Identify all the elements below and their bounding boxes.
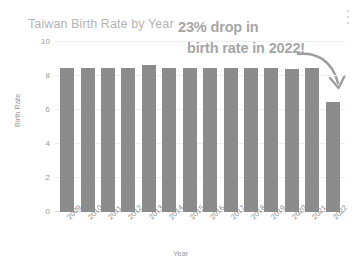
x-tick-column: 2012 — [118, 213, 138, 247]
y-axis-title: Birth Rate — [13, 94, 22, 127]
bar[interactable] — [81, 68, 95, 213]
chart-title: Taiwan Birth Rate by Year — [28, 17, 174, 31]
x-tick-column: 2011 — [98, 213, 118, 247]
callout-line-1: 23% drop in — [178, 17, 338, 38]
bar[interactable] — [244, 68, 258, 212]
x-tick-labels: 2009201020112012201320142015201620172018… — [55, 213, 345, 247]
bar[interactable] — [121, 68, 135, 213]
bar[interactable] — [101, 68, 115, 213]
x-tick-column: 2018 — [241, 213, 261, 247]
bar-column — [98, 42, 118, 212]
bar[interactable] — [142, 65, 156, 212]
bar[interactable] — [183, 68, 197, 213]
chart-screenshot: Taiwan Birth Rate by Year 23% drop in bi… — [0, 0, 361, 267]
bar-column — [180, 42, 200, 212]
bar-column — [77, 42, 97, 212]
x-tick-column: 2022 — [322, 213, 342, 247]
bar-column — [241, 42, 261, 212]
plot-area: 0246810 — [55, 42, 345, 212]
kebab-dot — [347, 10, 349, 12]
x-axis-title: Year — [0, 249, 361, 258]
bar-column — [139, 42, 159, 212]
y-tick-label: 2 — [46, 173, 50, 182]
bar[interactable] — [224, 68, 238, 212]
y-tick-label: 4 — [46, 139, 50, 148]
y-tick-label: 8 — [46, 71, 50, 80]
more-options-icon[interactable] — [343, 9, 353, 25]
bar-column — [118, 42, 138, 212]
bar[interactable] — [203, 68, 217, 213]
x-tick-column: 2019 — [261, 213, 281, 247]
bar[interactable] — [264, 68, 278, 212]
bar[interactable] — [162, 68, 176, 213]
bar-column — [302, 42, 322, 212]
bar-column — [282, 42, 302, 212]
bar-column — [159, 42, 179, 212]
x-tick-column: 2014 — [159, 213, 179, 247]
bar-column — [200, 42, 220, 212]
bar-column — [57, 42, 77, 212]
x-tick-column: 2016 — [200, 213, 220, 247]
bar-column — [220, 42, 240, 212]
kebab-dot — [347, 16, 349, 18]
x-tick-column: 2015 — [180, 213, 200, 247]
x-tick-column: 2020 — [282, 213, 302, 247]
x-tick-column: 2013 — [139, 213, 159, 247]
x-tick-column: 2010 — [77, 213, 97, 247]
bar-series — [55, 42, 345, 212]
bar[interactable] — [305, 68, 319, 212]
bar[interactable] — [285, 69, 299, 212]
y-tick-label: 0 — [46, 207, 50, 216]
bar-column — [322, 42, 342, 212]
x-tick-column: 2021 — [302, 213, 322, 247]
y-tick-label: 6 — [46, 105, 50, 114]
y-tick-label: 10 — [41, 37, 50, 46]
bar[interactable] — [60, 68, 74, 212]
bar-column — [261, 42, 281, 212]
x-tick-column: 2009 — [57, 213, 77, 247]
bar[interactable] — [326, 102, 340, 213]
x-tick-column: 2017 — [220, 213, 240, 247]
kebab-dot — [347, 22, 349, 24]
